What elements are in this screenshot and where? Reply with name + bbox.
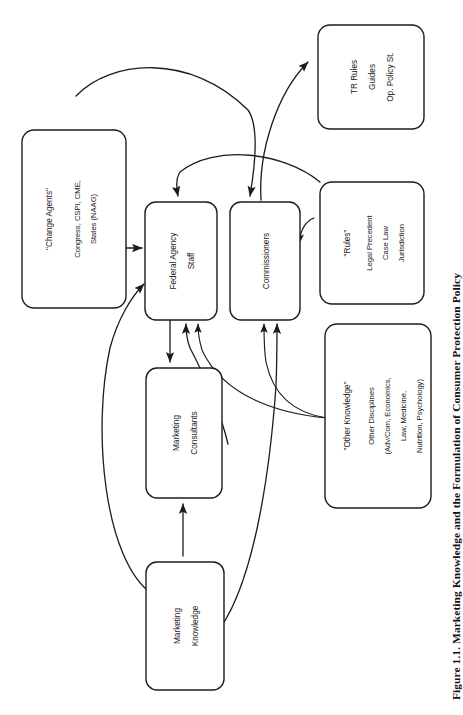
node-other-knowledge-line5: Nutrition, Psychology) — [415, 379, 424, 453]
node-other-knowledge-line4: Law, Medicine, — [399, 391, 408, 441]
node-other-knowledge-line2: Other Disciplines — [367, 387, 376, 445]
node-rules-line4: Jurisdiction — [397, 224, 406, 262]
node-tr-rules-line2: Guides — [368, 64, 377, 90]
node-marketing-knowledge-box[interactable] — [146, 562, 224, 690]
edge-rules-to-federal-agency-staff — [177, 155, 320, 196]
diagram-canvas: "Change Agents" Congress, CSPI, CME, Sta… — [0, 0, 463, 715]
figure-caption: Figure 1.1. Marketing Knowledge and the … — [450, 273, 462, 700]
node-tr-rules[interactable]: TR Rules Guides Op. Policy St. — [318, 25, 424, 129]
node-marketing-consultants-line2: Consultants — [190, 411, 199, 454]
node-rules[interactable]: "Rules" Legal Precedent Case Law Jurisdi… — [320, 182, 424, 304]
node-commissioners[interactable]: Commissioners — [230, 202, 300, 320]
node-commissioners-line1: Commissioners — [262, 233, 271, 289]
edge-commissioners-to-tr-rules — [261, 62, 308, 200]
node-federal-agency-staff-line2: Staff — [187, 252, 196, 269]
node-change-agents-line2: Congress, CSPI, CME, — [73, 180, 82, 258]
node-other-knowledge-line3: (Adv/Com, Economics, — [383, 377, 392, 454]
node-tr-rules-line3: Op. Policy St. — [386, 52, 395, 102]
node-other-knowledge-line1: "Other Knowledge" — [343, 381, 352, 450]
node-tr-rules-line1: TR Rules — [350, 60, 359, 94]
node-rules-line3: Case Law — [381, 226, 390, 260]
node-marketing-consultants[interactable]: Marketing Consultants — [146, 368, 222, 498]
node-marketing-consultants-box[interactable] — [146, 368, 222, 498]
node-federal-agency-staff-line1: Federal Agency — [169, 232, 178, 290]
node-change-agents[interactable]: "Change Agents" Congress, CSPI, CME, Sta… — [22, 130, 126, 308]
node-marketing-knowledge-line1: Marketing — [173, 608, 182, 644]
edge-federal-agency-staff-marketing-knowledge — [102, 284, 152, 594]
node-marketing-consultants-line1: Marketing — [172, 415, 181, 451]
figure-root: "Change Agents" Congress, CSPI, CME, Sta… — [0, 0, 463, 715]
edge-other-knowledge-to-commissioners — [264, 324, 327, 418]
node-other-knowledge[interactable]: "Other Knowledge" Other Disciplines (Adv… — [325, 324, 431, 508]
node-marketing-knowledge-line2: Knowledge — [191, 605, 200, 646]
node-rules-line2: Legal Precedent — [365, 214, 374, 270]
edge-rules-to-commissioners — [299, 218, 314, 244]
node-change-agents-line3: States (NAAG) — [89, 193, 98, 244]
node-federal-agency-staff[interactable]: Federal Agency Staff — [145, 202, 217, 320]
node-federal-agency-staff-box[interactable] — [145, 202, 217, 320]
node-rules-line1: "Rules" — [343, 230, 352, 257]
node-marketing-knowledge[interactable]: Marketing Knowledge — [146, 562, 224, 690]
node-change-agents-line1: "Change Agents" — [45, 188, 54, 250]
